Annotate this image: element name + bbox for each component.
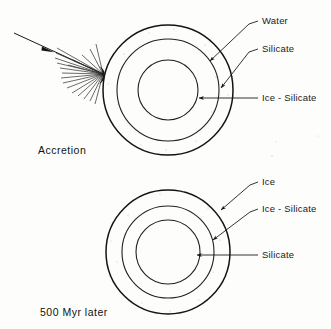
- caption-later: 500 Myr later: [40, 306, 108, 318]
- label-ice-silicate-2: Ice - Silicate: [262, 203, 317, 214]
- caption-accretion: Accretion: [38, 144, 86, 156]
- label-silicate-2: Silicate: [262, 249, 294, 260]
- label-ice: Ice: [262, 176, 275, 187]
- planetary-differentiation-figure: Water Silicate Ice - Silicate Accretion …: [0, 0, 331, 329]
- label-ice-silicate: Ice - Silicate: [262, 92, 317, 103]
- label-silicate: Silicate: [262, 43, 294, 54]
- label-water: Water: [262, 15, 288, 26]
